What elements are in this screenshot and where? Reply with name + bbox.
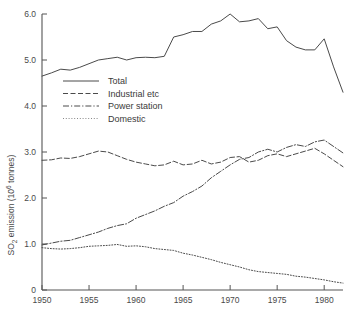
x-tick-label: 1955 xyxy=(80,295,99,305)
chart-legend: TotalIndustrial etcPower stationDomestic xyxy=(63,76,163,124)
y-axis-tick-labels: 01.02.03.04.05.06.0 xyxy=(24,9,36,295)
series-line-power-station xyxy=(42,140,343,245)
svg-text:SO2 emission (106 tonnes): SO2 emission (106 tonnes) xyxy=(5,154,18,255)
series-line-domestic xyxy=(42,244,343,283)
chart-canvas: SO2 emission (106 tonnes) 01.02.03.04.05… xyxy=(0,0,355,317)
x-tick-label: 1950 xyxy=(33,295,52,305)
y-tick-label: 6.0 xyxy=(24,9,36,19)
series-line-total xyxy=(42,14,343,92)
y-tick-label: 3.0 xyxy=(24,147,36,157)
y-tick-label: 5.0 xyxy=(24,55,36,65)
x-axis-tick-labels: 1950195519601965197019751980 xyxy=(33,295,334,305)
y-tick-label: 2.0 xyxy=(24,193,36,203)
legend-label-domestic: Domestic xyxy=(108,114,146,124)
y-tick-label: 0 xyxy=(31,285,36,295)
legend-label-power-station: Power station xyxy=(108,101,163,111)
x-tick-label: 1980 xyxy=(315,295,334,305)
x-tick-label: 1960 xyxy=(127,295,146,305)
series-line-industrial-etc xyxy=(42,148,343,166)
axis-tick-marks xyxy=(42,14,324,290)
x-tick-label: 1975 xyxy=(268,295,287,305)
legend-label-industrial-etc: Industrial etc xyxy=(108,89,160,99)
y-tick-label: 4.0 xyxy=(24,101,36,111)
x-tick-label: 1965 xyxy=(174,295,193,305)
legend-label-total: Total xyxy=(108,76,127,86)
data-series-group xyxy=(42,14,343,283)
so2-emission-line-chart: SO2 emission (106 tonnes) 01.02.03.04.05… xyxy=(0,0,355,317)
x-tick-label: 1970 xyxy=(221,295,240,305)
y-tick-label: 1.0 xyxy=(24,239,36,249)
y-axis-title: SO2 emission (106 tonnes) xyxy=(5,154,18,255)
